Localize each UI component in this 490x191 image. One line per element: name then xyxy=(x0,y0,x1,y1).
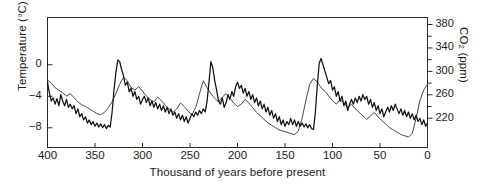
x-axis-tick-label: 200 xyxy=(218,149,258,161)
y-axis-right-tick-label: 380 xyxy=(436,17,470,29)
x-axis-tick-label: 400 xyxy=(28,149,68,161)
y-axis-left-tick-label: −8 xyxy=(14,120,42,132)
y-axis-left-tick-label: 0 xyxy=(14,57,42,69)
y-axis-left-tick-label: −4 xyxy=(14,89,42,101)
x-axis-tick-label: 100 xyxy=(313,149,353,161)
x-axis-tick-label: 0 xyxy=(408,149,448,161)
series-line-temperature-anomaly xyxy=(48,58,428,129)
series-line-co2 xyxy=(48,77,428,137)
y-axis-right-tick-label: 340 xyxy=(436,40,470,52)
y-axis-right-tick-label: 220 xyxy=(436,111,470,123)
x-axis-tick-label: 50 xyxy=(360,149,400,161)
x-axis-tick-label: 150 xyxy=(265,149,305,161)
x-axis-tick-label: 250 xyxy=(170,149,210,161)
x-axis-tick-label: 300 xyxy=(123,149,163,161)
x-axis-tick-label: 350 xyxy=(75,149,115,161)
y-axis-right-tick-label: 300 xyxy=(436,64,470,76)
plot-area xyxy=(0,0,490,191)
climate-chart-figure: Temperature (°C) CO₂ (ppm) Thousand of y… xyxy=(0,0,490,191)
y-axis-right-tick-label: 260 xyxy=(436,87,470,99)
